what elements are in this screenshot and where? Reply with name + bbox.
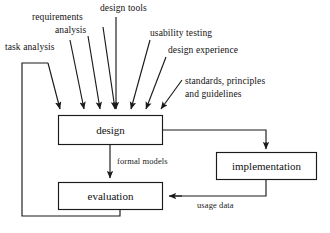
label-design-experience: design experience — [168, 45, 238, 56]
label-requirements: requirements — [32, 12, 83, 23]
edge-design-to-implementation — [163, 130, 266, 149]
arrow-design-experience — [146, 57, 166, 109]
arrow-usability-testing — [131, 40, 150, 109]
label-analysis: analysis — [55, 25, 86, 36]
diagram-canvas: design implementation evaluation task an… — [0, 0, 330, 233]
label-task-analysis: task analysis — [5, 42, 55, 53]
box-implementation-label: implementation — [216, 152, 317, 180]
arrow-design-tools-left — [103, 27, 115, 109]
label-usability-testing: usability testing — [150, 28, 212, 39]
label-design-tools: design tools — [100, 3, 147, 14]
arrow-requirements-analysis — [70, 40, 84, 109]
edge-implementation-to-evaluation — [169, 180, 266, 196]
label-standards-principles: standards, principles — [185, 76, 265, 87]
label-formal-models: formal models — [117, 156, 168, 167]
box-evaluation-label: evaluation — [58, 182, 163, 210]
arrow-standards-principles — [161, 80, 182, 109]
arrow-analysis — [88, 36, 100, 109]
box-design-label: design — [58, 115, 163, 145]
label-usage-data: usage data — [197, 200, 234, 211]
label-and-guidelines: and guidelines — [185, 89, 242, 100]
